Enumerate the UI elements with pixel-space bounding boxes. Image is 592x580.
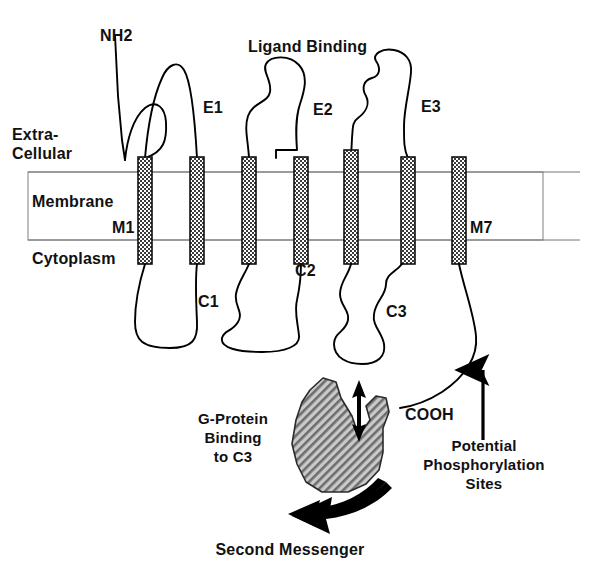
loop-e2 — [246, 57, 305, 158]
label-extracellular-line1: Extra- — [12, 126, 59, 145]
label-potential-line1: Potential — [400, 437, 568, 455]
label-gprotein-line1: G-Protein — [178, 410, 288, 428]
label-e2: E2 — [313, 101, 333, 120]
loop-c2 — [222, 264, 301, 352]
diagram-canvas: NH2 Ligand Binding Extra- Cellular Membr… — [0, 0, 592, 580]
cytoplasmic-chain — [135, 264, 476, 408]
label-membrane: Membrane — [32, 193, 114, 212]
label-c1: C1 — [198, 293, 219, 312]
helix-m6 — [401, 157, 415, 264]
label-cooh: COOH — [405, 406, 454, 425]
receptor-topology-figure — [0, 0, 592, 580]
label-c2: C2 — [295, 262, 316, 281]
label-potential-line3: Sites — [400, 475, 568, 493]
label-cytoplasm: Cytoplasm — [32, 250, 116, 269]
label-e1: E1 — [203, 99, 223, 118]
nh2-tail — [115, 35, 125, 160]
loop-e1 — [145, 64, 197, 158]
label-second-messenger: Second Messenger — [180, 541, 400, 560]
label-nh2: NH2 — [100, 27, 133, 46]
label-ligand-binding: Ligand Binding — [248, 38, 367, 57]
label-gprotein-line3: to C3 — [178, 448, 288, 466]
label-m1: M1 — [112, 219, 135, 238]
helix-m5 — [344, 150, 358, 264]
helix-m4 — [294, 157, 308, 264]
g-protein-shape — [292, 378, 389, 492]
label-gprotein-line2: Binding — [178, 429, 288, 447]
cooh-tail — [400, 264, 476, 408]
loop-c1 — [135, 264, 197, 348]
label-m7: M7 — [470, 219, 493, 238]
transmembrane-helices — [138, 150, 466, 264]
label-potential-line2: Phosphorylation — [400, 456, 568, 474]
helix-m1 — [138, 157, 152, 264]
label-e3: E3 — [421, 98, 441, 117]
label-c3: C3 — [386, 303, 407, 322]
loop-e3 — [351, 50, 411, 158]
helix-m7 — [452, 157, 466, 264]
label-extracellular-line2: Cellular — [12, 145, 72, 164]
helix-m2 — [190, 157, 204, 264]
helix-m3 — [242, 157, 256, 264]
